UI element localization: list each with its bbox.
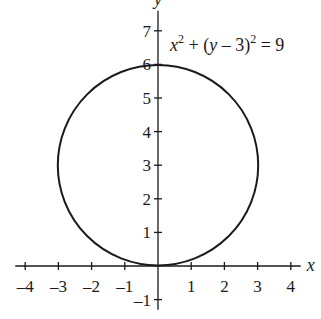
x-tick-label: 1	[187, 277, 196, 296]
eq-mid: + (	[184, 35, 209, 56]
x-tick-label: 4	[287, 277, 296, 296]
x-tick-label: 3	[253, 277, 262, 296]
x-tick-label: –3	[49, 277, 67, 296]
y-axis-label: y	[152, 0, 162, 9]
x-tick-label: –2	[82, 277, 100, 296]
y-tick-label: –1	[133, 291, 151, 310]
eq-y: y	[207, 35, 217, 55]
x-axis-label: x	[306, 255, 315, 275]
y-tick-label: 7	[143, 22, 152, 41]
equation-label: x2 + (y – 3)2 = 9	[169, 32, 284, 56]
x-tick-label: –1	[115, 277, 133, 296]
x-tick-label: 2	[220, 277, 229, 296]
y-tick-label: 5	[143, 89, 152, 108]
eq-x: x	[169, 35, 178, 55]
eq-rest: – 3)	[217, 35, 250, 56]
y-tick-label: 3	[143, 156, 152, 175]
circle-graph: –4–3–2–11234–11234567 x y x2 + (y – 3)2 …	[0, 0, 321, 319]
eq-end: = 9	[256, 35, 284, 55]
y-tick-label: 4	[143, 123, 152, 142]
x-tick-label: –4	[16, 277, 35, 296]
y-tick-label: 1	[143, 223, 152, 242]
y-tick-label: 2	[143, 190, 152, 209]
